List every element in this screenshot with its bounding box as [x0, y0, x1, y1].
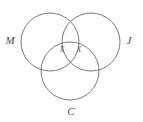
set-label-m: M — [4, 34, 15, 46]
venn-diagram-canvas: M J C X X — [0, 0, 143, 122]
set-label-c: C — [67, 105, 75, 117]
region-mark-left: X — [59, 45, 66, 54]
region-mark-right: X — [76, 45, 83, 54]
set-label-j: J — [127, 34, 133, 46]
venn-diagram: M J C X X — [0, 0, 143, 122]
